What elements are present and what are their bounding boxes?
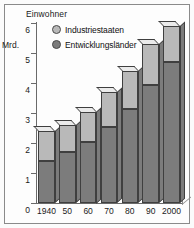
bar-top-cap [33,126,55,131]
bar-segment-entwicklungslaender [142,85,159,204]
bar-top-cap [54,120,76,125]
bar-segment-industriestaaten [80,112,97,142]
bar-column [101,92,118,203]
tick-label-text: 6 [25,25,30,35]
bar-segment-entwicklungslaender [80,142,97,204]
tick-label-text: 3 [25,115,30,125]
bar-column [59,125,76,203]
bar-segment-entwicklungslaender [122,109,139,204]
bar-segment-industriestaaten [142,44,159,85]
bar-segment-entwicklungslaender [38,161,55,203]
x-axis-tick-label: 2000 [158,206,185,216]
y-axis-tick-label: 3 [0,109,30,117]
y-axis-tick-label: 4 [0,79,30,87]
bar-column [38,131,55,203]
bar-segment-industriestaaten [122,71,139,109]
tick-label-text: 5 [25,55,30,65]
y-axis-tick-label: 0 [0,199,30,207]
tick-label-text: 1 [25,175,30,185]
bar-column [163,26,180,203]
bar-segment-industriestaaten [163,26,180,62]
tick-label-text: 2 [25,145,30,155]
bar-top-cap [138,39,160,44]
bar-segment-entwicklungslaender [163,62,180,203]
tick-label-text: 4 [25,85,30,95]
bar-top-cap [158,21,180,26]
bar-column [122,71,139,203]
bar-column [80,112,97,204]
bar-segment-industriestaaten [59,125,76,152]
y-axis-tick-label: 1 [0,169,30,177]
bar-top-cap [75,107,97,112]
bar-segment-entwicklungslaender [101,127,118,204]
y-axis-tick-label: 6 [0,19,30,27]
y-axis-tick-label: 2 [0,139,30,147]
bar-top-cap [96,87,118,92]
chart-figure: Einwohner Mrd. Industriestaaten Entwickl… [0,0,194,228]
bar-segment-industriestaaten [101,92,118,127]
y-axis-tick-label: 5 [0,49,30,57]
tick-label-text: 0 [25,205,30,215]
bar-segment-industriestaaten [38,131,55,161]
bar-series-area [36,0,182,228]
bar-side-face [180,21,185,203]
bar-top-cap [117,66,139,71]
bar-segment-entwicklungslaender [59,152,76,203]
bar-column [142,44,159,203]
